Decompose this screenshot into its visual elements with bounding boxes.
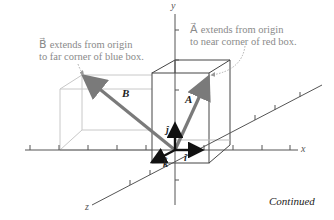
blue-box — [60, 75, 152, 150]
continued-label: Continued — [269, 195, 315, 207]
b-note-line2: to far corner of blue box. — [39, 51, 144, 63]
unit-j-label: ĵ — [166, 124, 169, 135]
unit-i-label: î — [184, 152, 187, 163]
b-note: B⃗ extends from origin to far corner of … — [39, 39, 144, 63]
a-note-line2: to near corner of red box. — [190, 36, 297, 48]
b-note-line1: B⃗ extends from origin — [39, 39, 144, 51]
unit-k-label: k̂ — [163, 158, 168, 169]
z-axis-label: z — [85, 201, 89, 212]
a-note: A⃗ extends from origin to near corner of… — [190, 24, 297, 48]
x-axis-label: x — [301, 143, 305, 154]
b-note-leader — [78, 64, 83, 74]
a-note-line1: A⃗ extends from origin — [190, 24, 297, 36]
vector-a-label: A⃗ — [185, 93, 201, 105]
vector-b-label: B⃗ — [122, 87, 138, 99]
y-axis-label: y — [171, 0, 175, 11]
z-axis — [92, 85, 322, 205]
